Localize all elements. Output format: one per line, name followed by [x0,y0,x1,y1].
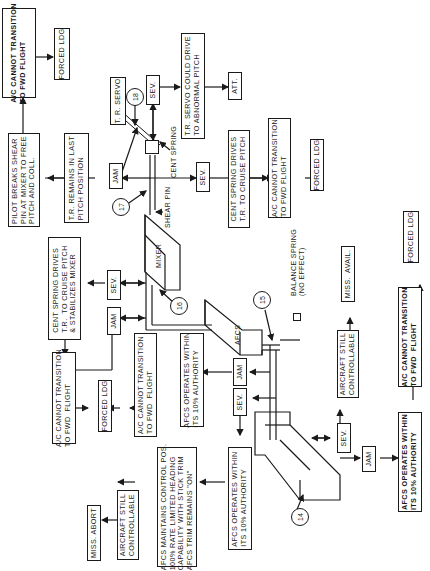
box-aircraft-still-left: AIRCRAFT STILL CONTROLLABLE [117,490,139,560]
box-afcs-operates-sev15: AFCS OPERATES WITHIN ITS 10% AUTHORITY [228,447,252,550]
cent-spring-block [145,140,159,154]
callout-18: 18 [126,88,144,106]
box-afcs-cannot-transition: A/C CANNOT TRANSITION TO FWD FLIGHT [134,333,157,437]
box-jam-15: JAM [233,358,247,386]
box-sev-16: SEV. [107,270,121,300]
box-afcs-maintains: AFCS MAINTAINS CONTROL POS. 100% RATE LI… [157,447,197,567]
box-jam-17: JAM [109,163,123,189]
callout-14: 14 [291,508,309,526]
box-jam-14: JAM [362,446,376,472]
box-miss-abort: MISS. ABORT [87,505,101,561]
label-cent-spring: CENT SPRING [170,126,178,178]
callout-17: 17 [112,198,130,216]
box-sev-18: SEV. [146,75,160,105]
box-att: ATT. [228,72,242,100]
box-cent-spring-drives: CENT SPRING DRIVES T.R. TO CRUISE PITCH [228,130,250,228]
label-mixer: MIXER [155,244,163,268]
box-jam-16: JAM [107,307,121,335]
box-left-forced-ldg: FORCED LDG [98,380,112,432]
box-top-cannot-transition: A/C CANNOT TRANSITION TO FWD FLIGHT [2,8,36,98]
box-miss-avail: MISS. AVAIL. [341,246,355,302]
box-sev-15: SEV. [233,388,247,416]
balance-spring-block [293,313,301,321]
box-aircraft-still-right: AIRCRAFT STILL CONTROLLABLE [337,330,359,398]
callout-15: 15 [253,291,271,309]
box-tr-servo-could-drive: T.R. SERVO COULD DRIVE TO ABNORMAL PITCH [181,33,205,139]
box-sev-14: SEV. [337,423,351,453]
box-right-cannot-transition: A/C CANNOT TRANSITION TO FWD FLIGHT [398,287,422,387]
label-afcs: AFCS [234,325,242,345]
box-mid-cannot-transition: A/C CANNOT TRANSITION TO FWD FLIGHT [268,118,291,218]
callout-16: 16 [170,297,188,315]
box-left-cannot-transition: A/C CANNOT TRANSITION TO FWD FLIGHT [52,352,76,444]
label-tr-servo: T. R. SERVO [110,77,126,125]
box-afcs-operates-jam15: AFCS OPERATES WITHIN ITS 10% AUTHORITY [180,333,204,427]
label-shear-pin: SHEAR PIN [164,187,172,228]
box-cent-spring-stabilizes: CENT SPRING DRIVES T.R. TO CRUISE PITCH … [48,237,81,340]
label-balance-spring: BALANCE SPRING (NO EFFECT) [290,229,307,296]
box-pilot-breaks-shear-pin: PILOT BREAKS SHEAR PIN AT MIXER TO FREE … [8,133,40,227]
box-tr-remains: T.R. REMAINS IN LAST PITCH POSITION [64,133,89,223]
box-sev-17: SEV. [196,162,210,192]
box-top-forced-ldg: FORCED LDG [54,28,70,80]
box-right-forced-ldg: FORCED LDG [403,211,419,263]
box-afcs-operates-14: AFCS OPERATES WITHIN ITS 10% AUTHORITY [398,412,422,512]
box-mid-forced-ldg: FORCED LDG [310,139,324,191]
